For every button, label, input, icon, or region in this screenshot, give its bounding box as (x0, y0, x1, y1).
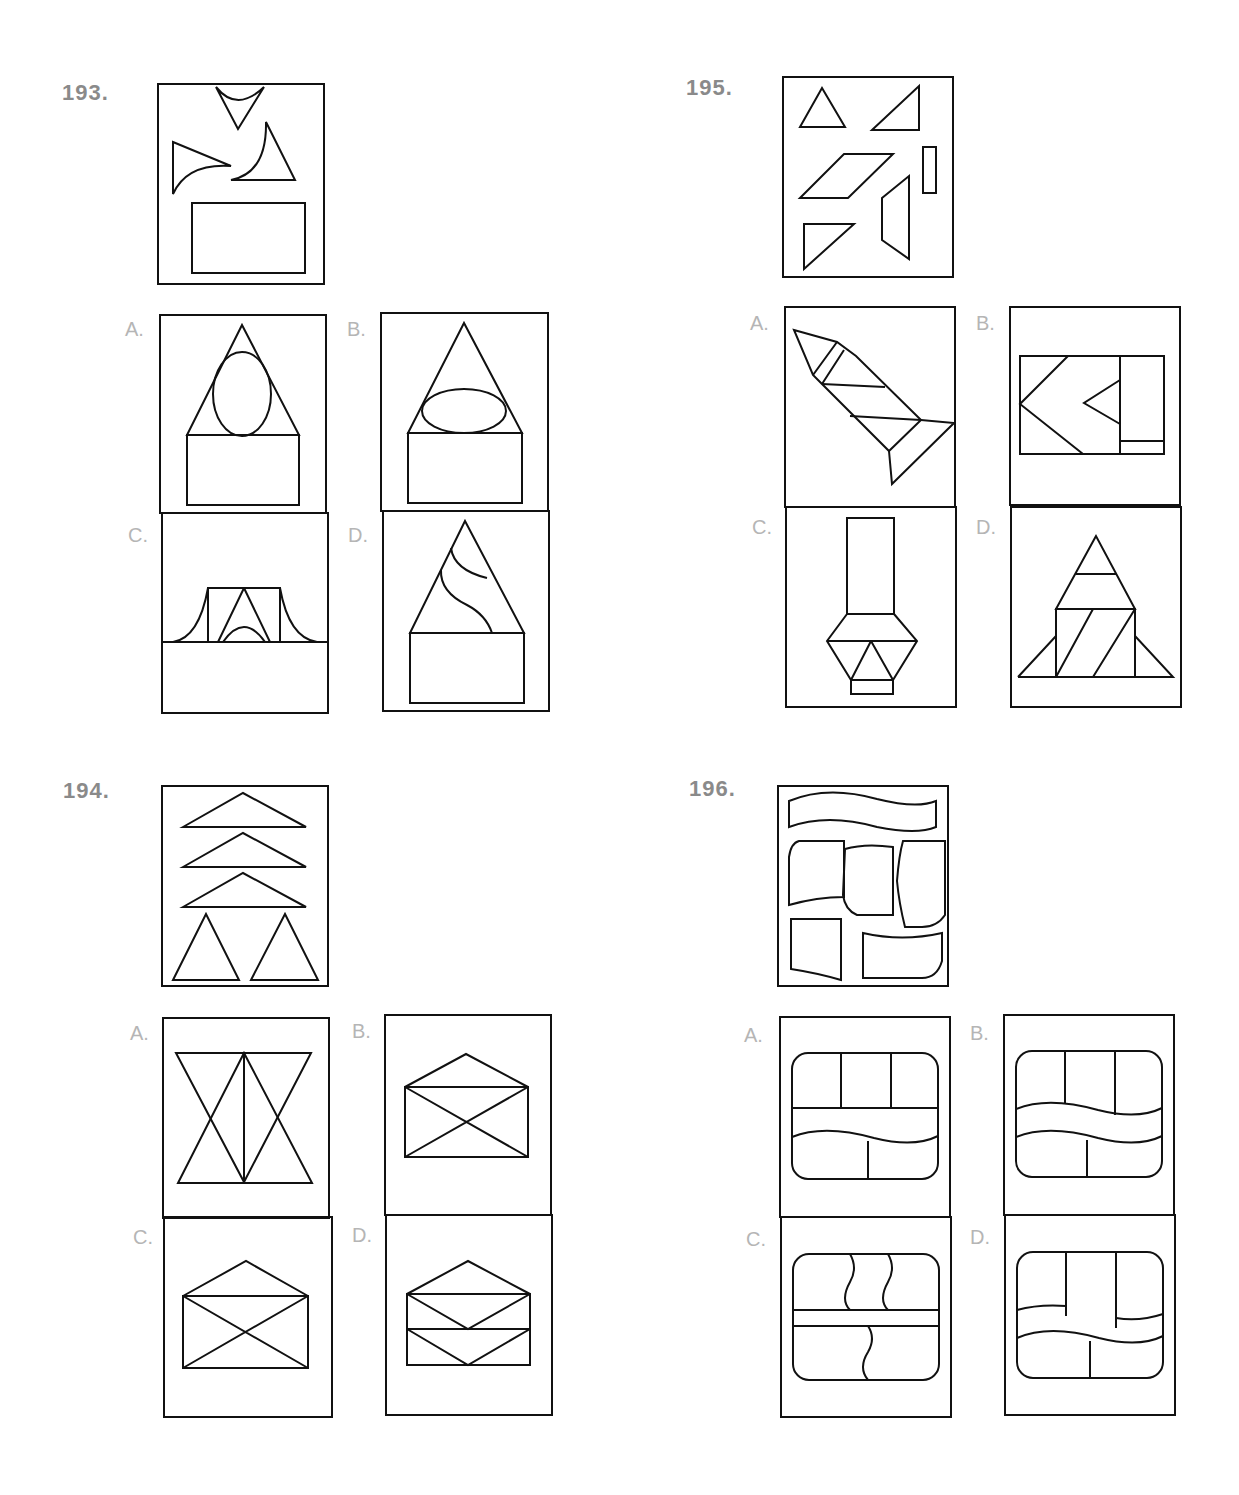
problem-194-option-a[interactable] (162, 1017, 330, 1220)
problem-number-194: 194. (63, 778, 110, 804)
problem-194-pieces (161, 785, 329, 988)
problem-193-pieces (157, 83, 325, 286)
problem-196-option-a[interactable] (779, 1016, 951, 1219)
option-label-195-b[interactable]: B. (976, 312, 995, 335)
option-label-194-b[interactable]: B. (352, 1020, 371, 1043)
option-label-194-c[interactable]: C. (133, 1226, 153, 1249)
option-label-196-d[interactable]: D. (970, 1226, 990, 1249)
problem-194-option-c[interactable] (163, 1216, 333, 1419)
problem-195-option-a[interactable] (784, 306, 956, 509)
problem-194-option-d[interactable] (385, 1214, 553, 1417)
problem-196-pieces (777, 785, 949, 988)
option-label-196-a[interactable]: A. (744, 1024, 763, 1047)
option-label-195-c[interactable]: C. (752, 516, 772, 539)
option-label-195-d[interactable]: D. (976, 516, 996, 539)
problem-196-option-b[interactable] (1003, 1014, 1175, 1217)
option-label-196-c[interactable]: C. (746, 1228, 766, 1251)
problem-193-option-a[interactable] (159, 314, 327, 514)
option-label-194-a[interactable]: A. (130, 1022, 149, 1045)
problem-number-193: 193. (62, 80, 109, 106)
problem-195-pieces (782, 76, 954, 279)
option-label-195-a[interactable]: A. (750, 312, 769, 335)
option-label-196-b[interactable]: B. (970, 1022, 989, 1045)
problem-number-196: 196. (689, 776, 736, 802)
option-label-193-d[interactable]: D. (348, 524, 368, 547)
problem-195-option-c[interactable] (785, 506, 957, 709)
problem-195-option-d[interactable] (1010, 506, 1182, 709)
option-label-193-c[interactable]: C. (128, 524, 148, 547)
problem-196-option-c[interactable] (780, 1216, 952, 1419)
option-label-194-d[interactable]: D. (352, 1224, 372, 1247)
option-label-193-b[interactable]: B. (347, 318, 366, 341)
problem-194-option-b[interactable] (384, 1014, 552, 1217)
option-label-193-a[interactable]: A. (125, 318, 144, 341)
problem-195-option-b[interactable] (1009, 306, 1181, 506)
problem-number-195: 195. (686, 75, 733, 101)
problem-193-option-c[interactable] (161, 512, 329, 715)
problem-193-option-b[interactable] (380, 312, 549, 512)
problem-193-option-d[interactable] (382, 510, 550, 713)
problem-196-option-d[interactable] (1004, 1214, 1176, 1417)
